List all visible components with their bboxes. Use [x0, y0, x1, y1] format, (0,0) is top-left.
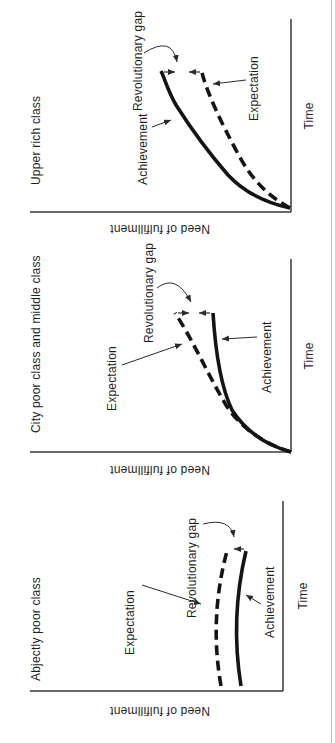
panel-upper-rich-class: Upper rich class Need of fulfillment Tim… — [29, 11, 316, 236]
achievement-arrow — [222, 337, 257, 339]
achievement-label: Achievement — [136, 113, 150, 185]
y-axis-label: Need of fulfillment — [110, 463, 210, 477]
revolutionary-gap-label: Revolutionary gap — [185, 518, 199, 618]
achievement-curve — [237, 551, 246, 686]
panel-abjectly-poor-class: Abjectly poor class Need of fulfillment … — [29, 501, 310, 718]
y-axis-label: Need of fulfillment — [110, 222, 210, 236]
achievement-curve — [213, 313, 291, 452]
expectation-label: Expectation — [247, 56, 261, 121]
revolutionary-gap-arrow — [144, 46, 177, 62]
achievement-label: Achievement — [263, 566, 277, 638]
revolutionary-gap-label: Revolutionary gap — [142, 243, 156, 343]
expectation-curve — [216, 551, 227, 686]
expectation-arrow — [213, 80, 246, 84]
expectation-label: Expectation — [105, 346, 119, 411]
revolutionary-gap-arrow — [157, 283, 191, 302]
axes — [30, 259, 291, 452]
revolutionary-gap-label: Revolutionary gap — [131, 11, 145, 111]
expectation-arrow — [122, 344, 182, 365]
revolutionary-gap-arrow — [203, 522, 234, 537]
expectation-curve — [202, 73, 290, 208]
y-axis-label: Need of fulfillment — [110, 704, 210, 718]
panel-title: City poor class and middle class — [29, 255, 43, 433]
panel-city-poor-and-middle-class: City poor class and middle class Need of… — [29, 243, 316, 477]
achievement-curve — [161, 71, 290, 208]
rotated-figure-group: Abjectly poor class Need of fulfillment … — [29, 11, 316, 718]
figure-canvas: Abjectly poor class Need of fulfillment … — [0, 0, 335, 743]
x-axis-label: Time — [302, 102, 316, 129]
scanned-figure-page: Abjectly poor class Need of fulfillment … — [0, 0, 335, 743]
achievement-label: Achievement — [260, 321, 274, 393]
expectation-label: Expectation — [123, 590, 137, 655]
axes — [30, 501, 283, 691]
panel-title: Upper rich class — [29, 96, 43, 185]
panel-title: Abjectly poor class — [29, 577, 43, 681]
achievement-arrow — [152, 120, 171, 127]
x-axis-label: Time — [296, 582, 310, 609]
achievement-arrow — [246, 595, 261, 604]
x-axis-label: Time — [302, 342, 316, 369]
